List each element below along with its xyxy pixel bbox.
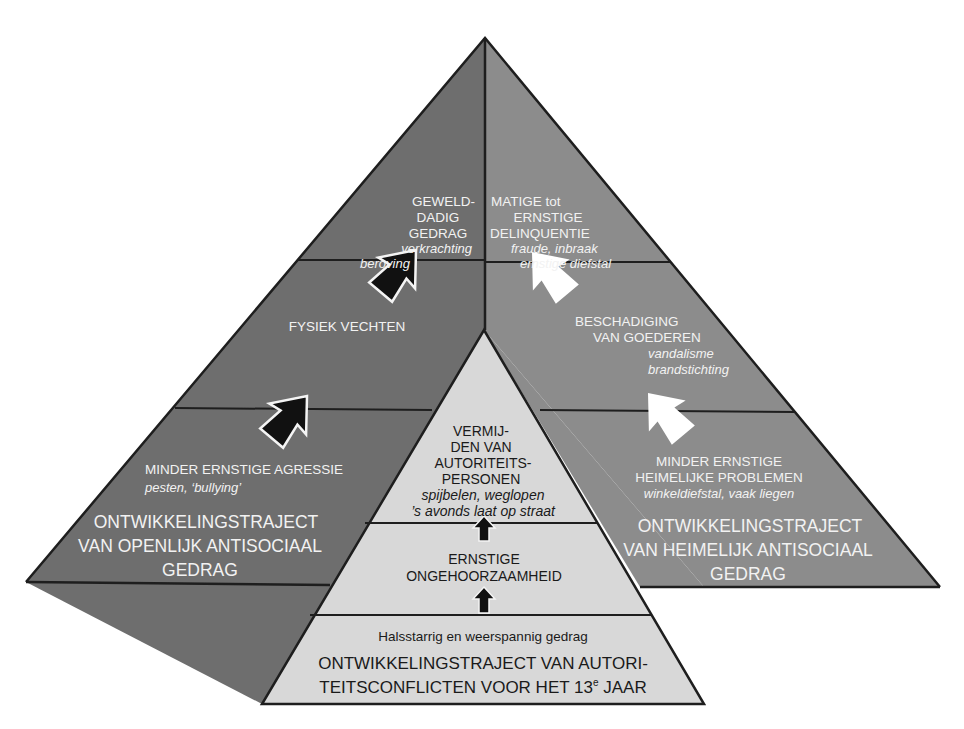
svg-text:DADIG: DADIG — [417, 210, 460, 225]
svg-text:ONTWIKKELINGSTRAJECT: ONTWIKKELINGSTRAJECT — [94, 512, 319, 532]
svg-text:MINDER ERNSTIGE AGRESSIE: MINDER ERNSTIGE AGRESSIE — [145, 462, 343, 477]
svg-text:BESCHADIGING: BESCHADIGING — [575, 314, 679, 329]
authority-level-bottom: Halsstarrig en weerspannig gedrag — [378, 629, 587, 644]
svg-text:ONGEHOORZAAMHEID: ONGEHOORZAAMHEID — [406, 568, 562, 584]
svg-text:ERNSTIGE: ERNSTIGE — [513, 210, 582, 225]
svg-text:DEN VAN: DEN VAN — [450, 439, 511, 455]
svg-text:HEIMELIJKE PROBLEMEN: HEIMELIJKE PROBLEMEN — [635, 470, 802, 485]
svg-text:vandalisme: vandalisme — [648, 346, 714, 361]
svg-text:VERMIJ-: VERMIJ- — [453, 423, 509, 439]
svg-text:FYSIEK VECHTEN: FYSIEK VECHTEN — [289, 319, 405, 334]
svg-text:DELINQUENTIE: DELINQUENTIE — [490, 226, 590, 241]
svg-text:Halsstarrig en weerspannig ged: Halsstarrig en weerspannig gedrag — [378, 629, 587, 644]
svg-text:VAN OPENLIJK ANTISOCIAAL: VAN OPENLIJK ANTISOCIAAL — [78, 536, 322, 556]
svg-text:ERNSTIGE: ERNSTIGE — [448, 551, 520, 567]
svg-text:verkrachting: verkrachting — [401, 241, 473, 256]
svg-text:’s avonds laat op straat: ’s avonds laat op straat — [411, 503, 556, 519]
svg-text:TEITSCONFLICTEN VOOR HET 13e J: TEITSCONFLICTEN VOOR HET 13e JAAR — [319, 677, 646, 697]
svg-text:GEDRAG: GEDRAG — [162, 560, 238, 580]
svg-text:PERSONEN: PERSONEN — [442, 471, 521, 487]
svg-text:MINDER ERNSTIGE: MINDER ERNSTIGE — [656, 454, 782, 469]
svg-text:ernstige diefstal: ernstige diefstal — [520, 256, 612, 271]
covert-level-bottom: MINDER ERNSTIGE HEIMELIJKE PROBLEMEN win… — [635, 454, 802, 501]
svg-text:MATIGE tot: MATIGE tot — [491, 194, 561, 209]
pyramid-diagram: GEWELD- DADIG GEDRAG verkrachting berovi… — [0, 0, 964, 729]
svg-text:GEDRAG: GEDRAG — [409, 226, 468, 241]
svg-text:brandstichting: brandstichting — [648, 362, 730, 377]
svg-text:GEWELD-: GEWELD- — [412, 194, 475, 209]
overt-level-middle: FYSIEK VECHTEN — [289, 319, 405, 334]
svg-text:spijbelen, weglopen: spijbelen, weglopen — [422, 487, 545, 503]
svg-text:fraude, inbraak: fraude, inbraak — [511, 241, 599, 256]
svg-text:winkeldiefstal, vaak liegen: winkeldiefstal, vaak liegen — [644, 486, 794, 501]
svg-text:beroving: beroving — [360, 256, 411, 271]
svg-text:ONTWIKKELINGSTRAJECT: ONTWIKKELINGSTRAJECT — [638, 516, 863, 536]
svg-text:ONTWIKKELINGSTRAJECT VAN AUTOR: ONTWIKKELINGSTRAJECT VAN AUTORI- — [318, 654, 648, 673]
svg-text:pesten, ‘bullying’: pesten, ‘bullying’ — [144, 480, 242, 495]
svg-text:AUTORITEITS-: AUTORITEITS- — [435, 455, 532, 471]
svg-text:VAN HEIMELIJK ANTISOCIAAL: VAN HEIMELIJK ANTISOCIAAL — [623, 540, 873, 560]
svg-text:VAN GOEDEREN: VAN GOEDEREN — [593, 330, 701, 345]
svg-text:GEDRAG: GEDRAG — [710, 564, 786, 584]
